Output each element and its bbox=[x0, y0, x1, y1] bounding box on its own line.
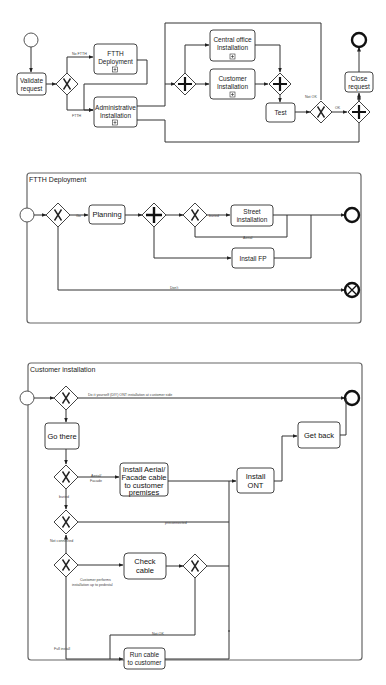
svg-text:Get back: Get back bbox=[304, 431, 334, 440]
svg-text:Installation: Installation bbox=[217, 44, 248, 51]
svg-text:Close: Close bbox=[351, 75, 368, 82]
start-event-ftth[interactable] bbox=[20, 208, 34, 222]
svg-text:FTTH: FTTH bbox=[107, 50, 124, 57]
bpmn-diagrams: Validate request No FTTH FTTH Deployment… bbox=[0, 0, 386, 685]
parallel-gateway-split[interactable] bbox=[174, 73, 196, 95]
svg-text:Installation: Installation bbox=[100, 112, 131, 119]
xor-gateway-diy[interactable] bbox=[54, 386, 78, 410]
task-validate-line2: request bbox=[21, 85, 43, 93]
label-no-ftth: No FTTH bbox=[72, 52, 87, 56]
label-go: Go bbox=[76, 214, 81, 218]
svg-text:Aerial/: Aerial/ bbox=[91, 474, 101, 478]
diagram-main-process: Validate request No FTTH FTTH Deployment… bbox=[17, 23, 373, 142]
svg-text:installation up to pedestal: installation up to pedestal bbox=[72, 583, 113, 587]
svg-text:Go there: Go there bbox=[47, 432, 76, 441]
xor-gateway-cable-check[interactable] bbox=[183, 554, 207, 578]
svg-text:ONT: ONT bbox=[248, 481, 264, 490]
xor-gateway-connection[interactable] bbox=[54, 510, 78, 534]
label-aerial: Aerial bbox=[243, 236, 252, 240]
xor-gateway-install-type[interactable] bbox=[54, 553, 78, 577]
xor-gateway-ftth-check[interactable] bbox=[56, 73, 78, 95]
svg-text:Customer: Customer bbox=[218, 75, 247, 82]
start-event-customer[interactable] bbox=[20, 391, 34, 405]
svg-text:Check: Check bbox=[134, 557, 156, 566]
pool-title-customer: Customer installation bbox=[30, 366, 95, 373]
label-preconnected: preconnected bbox=[165, 521, 187, 525]
svg-text:Installation: Installation bbox=[217, 83, 248, 90]
label-ftth: FTTH bbox=[72, 114, 82, 118]
end-event-ftth[interactable] bbox=[345, 208, 359, 222]
svg-text:Administrative: Administrative bbox=[95, 104, 136, 111]
xor-gateway-cable-route[interactable] bbox=[54, 465, 78, 489]
start-event[interactable] bbox=[24, 33, 38, 47]
diagram-customer-installation: Customer installation Do it yourself (DI… bbox=[20, 363, 362, 669]
svg-text:cable: cable bbox=[136, 566, 154, 575]
label-ok: OK bbox=[335, 106, 341, 110]
svg-text:Install: Install bbox=[246, 472, 266, 481]
label-full-install: Full install bbox=[54, 647, 70, 651]
label-not-ok: Not OK bbox=[305, 95, 317, 99]
label-buried: buried bbox=[59, 495, 69, 499]
svg-text:Customer performs: Customer performs bbox=[80, 578, 111, 582]
svg-text:premises: premises bbox=[129, 488, 160, 497]
svg-text:Central office: Central office bbox=[213, 36, 252, 43]
xor-gateway-go[interactable] bbox=[46, 203, 70, 227]
svg-text:Test: Test bbox=[275, 109, 287, 116]
xor-gateway-test-result[interactable] bbox=[310, 101, 332, 123]
label-dont: Don't bbox=[170, 286, 178, 290]
svg-text:Install FP: Install FP bbox=[239, 255, 266, 262]
diagram-ftth-deployment: FTTH Deployment Go Planning buried Stree… bbox=[20, 173, 361, 323]
svg-text:Run cable: Run cable bbox=[130, 651, 160, 658]
svg-text:Street: Street bbox=[243, 208, 261, 215]
label-not-connected: Not connected bbox=[50, 539, 73, 543]
svg-text:Facade: Facade bbox=[90, 479, 102, 483]
cancel-end-event[interactable] bbox=[345, 283, 359, 297]
svg-text:to customer: to customer bbox=[128, 659, 163, 666]
end-event-customer[interactable] bbox=[345, 391, 359, 405]
parallel-gateway-ftth[interactable] bbox=[142, 203, 166, 227]
svg-text:Planning: Planning bbox=[92, 210, 121, 219]
end-event[interactable] bbox=[352, 33, 366, 47]
parallel-gateway-final[interactable] bbox=[348, 101, 370, 123]
pool-title-ftth: FTTH Deployment bbox=[29, 176, 86, 184]
svg-text:request: request bbox=[348, 83, 370, 91]
xor-gateway-cable-type[interactable] bbox=[183, 203, 207, 227]
label-buried: buried bbox=[209, 214, 219, 218]
label-diy: Do it yourself (DIY) ONT installation at… bbox=[88, 393, 172, 397]
parallel-gateway-join[interactable] bbox=[269, 73, 291, 95]
svg-text:Deployment: Deployment bbox=[98, 58, 133, 66]
task-validate-line1: Validate bbox=[20, 77, 43, 84]
label-not-ok-cable: Not OK bbox=[152, 632, 164, 636]
svg-text:installation: installation bbox=[237, 216, 268, 223]
